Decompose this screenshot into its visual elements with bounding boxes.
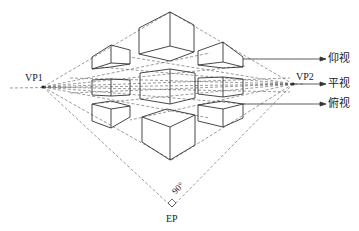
cube-bottom-left <box>92 101 130 128</box>
cube-top-left <box>92 45 130 69</box>
ep-label: EP <box>166 214 178 224</box>
cube-top-center <box>139 12 194 61</box>
vp1-label: VP1 <box>25 73 43 83</box>
view-label-eye-level: 平视 <box>328 78 350 89</box>
view-label-worm: 仰视 <box>328 53 350 64</box>
vp2-label: VP2 <box>296 72 314 82</box>
vp1-marker <box>41 85 44 88</box>
construction-lines <box>10 12 305 207</box>
cube-top-right <box>198 42 243 68</box>
cube-bottom-center <box>142 109 195 160</box>
cube-bottom-right <box>198 101 243 127</box>
cube-middle-left <box>92 79 130 96</box>
view-label-bird: 俯视 <box>328 98 350 109</box>
perspective-diagram <box>0 0 359 231</box>
right-angle-icon <box>168 199 176 207</box>
vp2-marker <box>291 82 294 85</box>
